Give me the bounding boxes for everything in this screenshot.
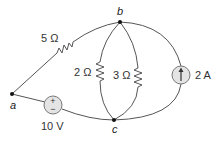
wire-r1-to-b (73, 22, 120, 42)
wire-vs-to-c (62, 109, 114, 120)
node-c-label: c (112, 123, 118, 135)
current-source-label: 2 A (195, 69, 212, 81)
resistor-5-ohm-label: 5 Ω (41, 32, 58, 44)
circuit-diagram: + − a b c 5 Ω 2 Ω 3 Ω 2 A 10 V (0, 0, 222, 141)
wire-a-to-vs (12, 94, 45, 102)
wire-b-to-r2 (100, 22, 120, 62)
resistor-3-ohm (134, 68, 142, 87)
minus-sign: − (50, 104, 55, 114)
voltage-source-label: 10 V (41, 120, 64, 132)
node-c (112, 118, 116, 122)
node-b-label: b (117, 5, 123, 17)
node-a-label: a (10, 99, 16, 111)
wire-b-to-is (120, 22, 181, 66)
resistor-3-ohm-label: 3 Ω (113, 69, 130, 81)
node-a (10, 92, 14, 96)
resistor-2-ohm-label: 2 Ω (74, 66, 91, 78)
node-b (118, 20, 122, 24)
resistor-2-ohm (96, 62, 104, 81)
wire-r2-to-c (100, 81, 114, 120)
wire-is-to-c (114, 84, 181, 120)
wire-b-to-r3 (120, 22, 138, 68)
wire-a-to-r1 (12, 53, 57, 94)
wire-r3-to-c (114, 87, 138, 120)
resistor-5-ohm (57, 42, 73, 53)
